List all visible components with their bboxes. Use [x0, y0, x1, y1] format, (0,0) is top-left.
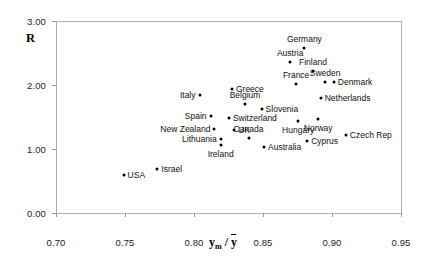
point-label: Slovenia [266, 105, 299, 114]
point-label: Israel [161, 165, 182, 174]
x-tick [263, 213, 264, 217]
x-tick-label: 0.95 [392, 237, 411, 248]
point-label: Australia [268, 143, 301, 152]
x-axis-title-denom-text: y [231, 235, 237, 249]
point-label: Canada [234, 125, 264, 134]
data-point [295, 82, 298, 85]
point-label: Switzerland [233, 113, 277, 122]
data-point [213, 128, 216, 131]
data-point [319, 96, 322, 99]
point-label: Cyprus [311, 137, 338, 146]
point-label: Italy [180, 91, 196, 100]
data-point [324, 80, 327, 83]
point-label: France [283, 70, 309, 79]
scatter-chart: R ym / y 0.700.750.800.850.900.95 0.001.… [0, 0, 428, 266]
point-label: Lithuania [182, 135, 217, 144]
x-axis-title-separator: / [225, 235, 228, 249]
x-tick [56, 213, 57, 217]
y-tick [52, 21, 56, 22]
point-label: Belgium [230, 90, 261, 99]
x-tick-label: 0.75 [116, 237, 135, 248]
data-point [306, 140, 309, 143]
x-axis-title-subscript: m [215, 242, 222, 251]
data-point [209, 115, 212, 118]
x-tick [332, 213, 333, 217]
data-point [227, 116, 230, 119]
data-point [317, 117, 320, 120]
data-point [332, 81, 335, 84]
x-tick [194, 213, 195, 217]
point-label: Spain [185, 112, 207, 121]
data-point [263, 146, 266, 149]
x-tick-label: 0.70 [47, 237, 66, 248]
x-axis-title: ym / y [209, 235, 237, 251]
data-point [219, 138, 222, 141]
point-label: Germany [287, 35, 322, 44]
data-point [260, 108, 263, 111]
data-point [289, 60, 292, 63]
point-label: Norway [304, 124, 333, 133]
x-tick-label: 0.90 [323, 237, 342, 248]
point-label: Netherlands [325, 94, 371, 103]
point-label: USA [128, 171, 145, 180]
data-point [244, 102, 247, 105]
y-tick [52, 85, 56, 86]
point-label: Sweden [310, 69, 341, 78]
x-axis-title-denom: y [231, 235, 237, 250]
y-tick [52, 149, 56, 150]
data-point [344, 133, 347, 136]
y-tick [52, 213, 56, 214]
point-label: Ireland [208, 150, 234, 159]
data-point [198, 94, 201, 97]
point-label: Finland [299, 58, 327, 67]
x-tick-label: 0.85 [254, 237, 273, 248]
x-tick-label: 0.80 [185, 237, 204, 248]
x-tick [125, 213, 126, 217]
point-label: Czech Rep [350, 131, 392, 140]
y-tick-label: 1.00 [12, 144, 46, 155]
x-tick [401, 213, 402, 217]
data-point [122, 174, 125, 177]
point-label: New Zealand [160, 125, 210, 134]
y-tick-label: 0.00 [12, 208, 46, 219]
data-point [303, 46, 306, 49]
point-label: Denmark [338, 78, 372, 87]
data-point [219, 144, 222, 147]
data-point [247, 137, 250, 140]
data-point [156, 167, 159, 170]
y-tick-label: 3.00 [12, 16, 46, 27]
y-tick-label: 2.00 [12, 80, 46, 91]
y-axis-title: R [26, 31, 35, 46]
data-point [297, 119, 300, 122]
